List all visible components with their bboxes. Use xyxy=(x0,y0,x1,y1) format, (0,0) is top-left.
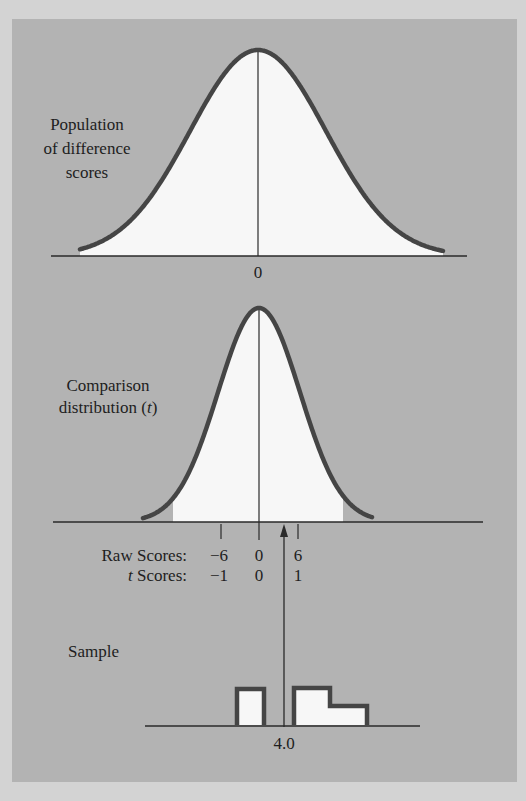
raw-tick-label-minus-6: −6 xyxy=(210,546,228,565)
raw-tick-label-0: 0 xyxy=(255,546,264,565)
population-label-line-1: Population xyxy=(50,115,124,134)
t-tick-label-minus-1: −1 xyxy=(210,566,228,585)
population-label-line-2: of difference xyxy=(44,139,131,158)
raw-tick-label-6: 6 xyxy=(294,546,303,565)
population-label-line-3: scores xyxy=(66,163,108,182)
population-axis-label-zero: 0 xyxy=(254,263,263,282)
comparison-label-line-1: Comparison xyxy=(66,376,150,395)
t-tick-label-0: 0 xyxy=(255,566,264,585)
sample-bar-left xyxy=(237,689,264,725)
sample-mean-label: 4.0 xyxy=(273,734,294,753)
raw-scores-label: Raw Scores: xyxy=(102,546,187,565)
comparison-label-line-2: distribution (t) xyxy=(59,398,158,417)
figure: Population of difference scores 0 Compar… xyxy=(0,0,526,801)
t-tick-label-1: 1 xyxy=(294,566,303,585)
sample-label: Sample xyxy=(68,642,119,661)
t-scores-label: t Scores: xyxy=(128,566,187,585)
